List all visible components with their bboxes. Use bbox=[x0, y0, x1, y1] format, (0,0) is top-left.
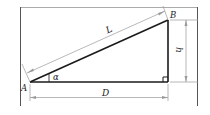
arrow-L-end bbox=[158, 11, 165, 16]
point-label-B: B bbox=[169, 10, 176, 20]
slope-triangle-diagram: A B L h D α bbox=[0, 0, 210, 115]
point-label-A: A bbox=[20, 83, 27, 93]
dimension-label-L: L bbox=[103, 24, 113, 36]
extension-line-B bbox=[163, 6, 168, 20]
arrow-L-start bbox=[27, 69, 34, 74]
arrow-h-bottom bbox=[185, 76, 188, 82]
dimension-D bbox=[30, 84, 168, 101]
triangle bbox=[30, 20, 168, 82]
arrow-D-left bbox=[30, 96, 36, 99]
dimension-label-D: D bbox=[101, 88, 109, 98]
dimension-line-L bbox=[27, 11, 165, 73]
extension-line-A bbox=[22, 64, 30, 82]
dimension-L bbox=[22, 6, 168, 82]
dimension-label-h: h bbox=[174, 47, 184, 53]
arrow-D-right bbox=[162, 96, 168, 99]
angle-label-alpha: α bbox=[53, 72, 59, 82]
hypotenuse-AB bbox=[30, 20, 168, 82]
arrow-h-top bbox=[185, 20, 188, 26]
